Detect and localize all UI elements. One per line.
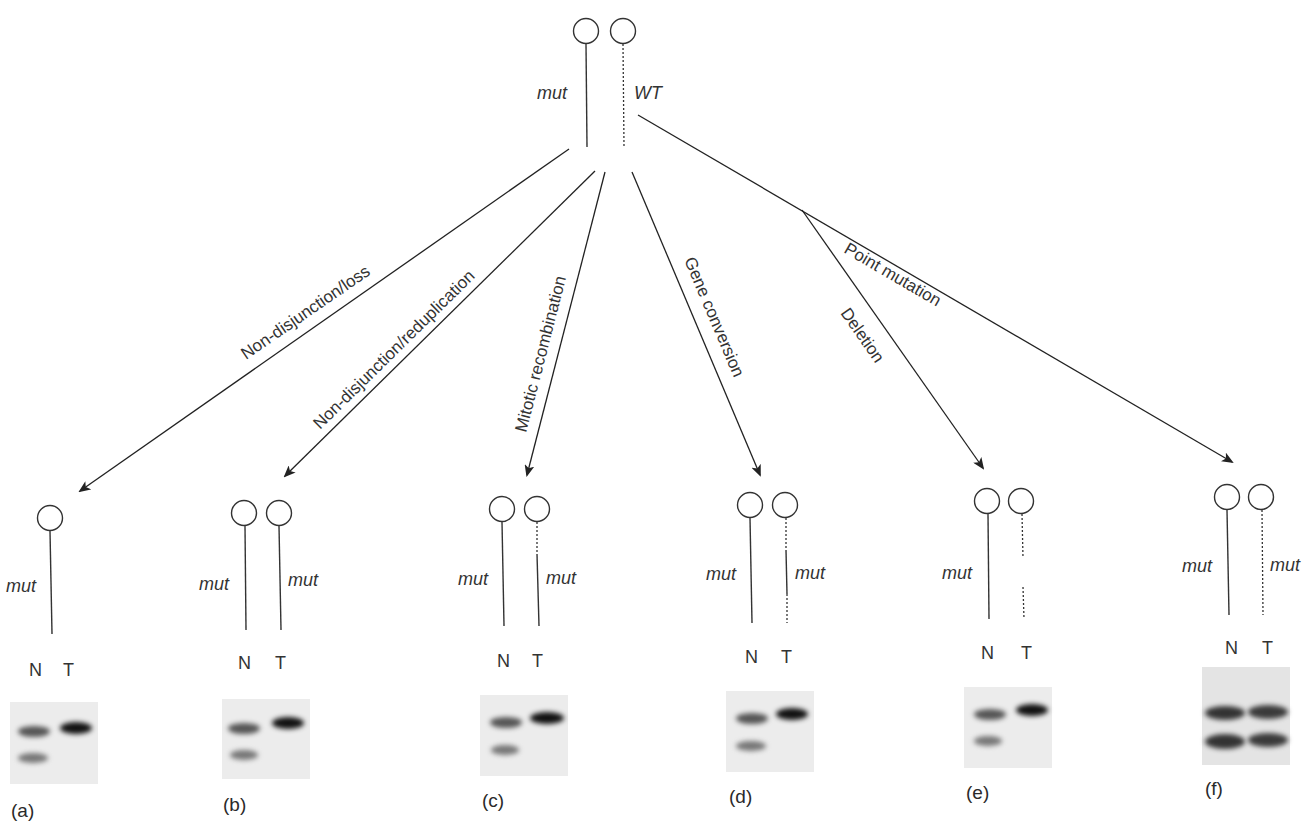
mechanism-label-d: Gene conversion <box>680 254 748 380</box>
arrow-d <box>632 172 760 475</box>
allele-label-left: mut <box>199 574 230 594</box>
centromere-icon <box>1009 489 1034 514</box>
arrow-e <box>802 210 983 468</box>
centromere-icon <box>1249 485 1274 510</box>
gel-band-t-upper <box>776 708 808 720</box>
panel-e: mut N T <box>942 489 1034 664</box>
lane-label-t: T <box>275 653 286 673</box>
allele-label: mut <box>6 576 37 596</box>
centromere-icon <box>1215 485 1240 510</box>
gel-c <box>480 695 568 776</box>
loh-mechanisms-diagram: mut WT Non-disjunction/loss Non-disjunct… <box>0 0 1313 826</box>
gel-band-n-upper <box>228 723 260 734</box>
centromere-icon <box>38 506 63 531</box>
gel-f <box>1202 667 1290 765</box>
gel-d <box>726 691 814 772</box>
gel-band-t-lower <box>1248 733 1288 747</box>
gel-band-t-upper <box>1016 704 1048 716</box>
mechanism-labels: Non-disjunction/loss Non-disjunction/red… <box>238 239 945 434</box>
panel-d: mut mut N T <box>706 493 826 668</box>
gel-band-t-upper <box>1248 705 1288 719</box>
mechanism-arrows <box>80 115 1232 491</box>
centromere-icon <box>574 19 599 44</box>
arrow-a <box>80 149 569 491</box>
mut-chromosome <box>279 526 281 630</box>
centromere-icon <box>773 493 798 518</box>
gel-band-n-lower <box>18 753 48 763</box>
mut-chromosome <box>502 522 504 626</box>
gel-e <box>964 687 1052 768</box>
lane-label-n: N <box>497 651 510 671</box>
panel-label-e: (e) <box>966 782 989 804</box>
gel-a <box>10 702 98 784</box>
gel-band-n-upper <box>974 709 1006 720</box>
wt-segment-bottom <box>1023 587 1024 619</box>
centromere-icon <box>611 19 636 44</box>
wt-allele-label: WT <box>634 83 664 103</box>
lane-label-t: T <box>63 660 74 680</box>
gel-band-n-lower <box>491 745 519 755</box>
lane-label-n: N <box>1225 638 1238 658</box>
wt-chromosome <box>623 44 624 147</box>
mechanism-label-a: Non-disjunction/loss <box>238 261 374 363</box>
panel-b: mut mut N T <box>199 501 319 674</box>
mut-chromosome <box>586 44 587 147</box>
centromere-icon <box>267 501 292 526</box>
panel-c: mut mut N T <box>458 497 577 672</box>
gel-band-t-upper <box>272 717 304 729</box>
lane-label-n: N <box>238 653 251 673</box>
mut-chromosome <box>245 526 246 630</box>
centromere-icon <box>490 497 515 522</box>
gel-band-t-upper <box>60 722 92 734</box>
lane-label-n: N <box>981 643 994 663</box>
mut-segment <box>786 550 787 594</box>
allele-label-left: mut <box>706 564 737 584</box>
lane-label-t: T <box>1262 638 1273 658</box>
lane-label-t: T <box>532 651 543 671</box>
mut-allele-label: mut <box>537 83 568 103</box>
mut-chromosome <box>1227 510 1229 615</box>
mut-chromosome <box>750 518 752 623</box>
gel-band-n-upper <box>490 717 522 728</box>
gel-band-n-lower <box>230 750 258 760</box>
lane-label-t: T <box>1021 643 1032 663</box>
gel-band-n-upper <box>736 713 768 724</box>
lane-label-t: T <box>781 647 792 667</box>
mechanism-label-f: Point mutation <box>841 239 944 310</box>
panel-label-f: (f) <box>1205 778 1223 800</box>
panel-label-b: (b) <box>223 794 246 816</box>
gel-band-n-lower <box>736 741 766 751</box>
gel-b <box>222 699 310 779</box>
allele-label-right: mut <box>795 563 826 583</box>
wt-segment-top <box>1022 514 1023 558</box>
panel-label-d: (d) <box>729 786 752 808</box>
mut-segment <box>537 554 539 626</box>
panel-label-c: (c) <box>482 790 504 812</box>
gel-band-n-lower <box>974 736 1002 746</box>
point-mutated-chromosome <box>1262 510 1263 615</box>
lane-label-n: N <box>745 647 758 667</box>
mechanism-label-e: Deletion <box>837 304 888 366</box>
centromere-icon <box>738 493 763 518</box>
allele-label-right: mut <box>288 570 319 590</box>
allele-label-left: mut <box>458 569 489 589</box>
mechanism-label-c: Mitotic recombination <box>511 274 570 434</box>
allele-label-right: mut <box>1270 555 1301 575</box>
centromere-icon <box>525 497 550 522</box>
gel-band-n-upper <box>1205 706 1245 720</box>
panel-a: mut N T <box>6 506 74 681</box>
lane-label-n: N <box>29 660 42 680</box>
panel-label-a: (a) <box>11 800 34 822</box>
gel-band-n-upper <box>18 726 50 737</box>
mut-chromosome <box>988 514 989 619</box>
centromere-icon <box>975 489 1000 514</box>
origin-chromosome-pair: mut WT <box>537 19 664 148</box>
gel-band-t-upper <box>530 712 564 724</box>
allele-label-left: mut <box>942 563 973 583</box>
gel-band-n-lower <box>1205 734 1245 749</box>
mut-chromosome <box>50 531 52 634</box>
panel-f: mut mut N T <box>1182 485 1301 659</box>
allele-label-right: mut <box>546 568 577 588</box>
centromere-icon <box>232 501 257 526</box>
allele-label-left: mut <box>1182 556 1213 576</box>
